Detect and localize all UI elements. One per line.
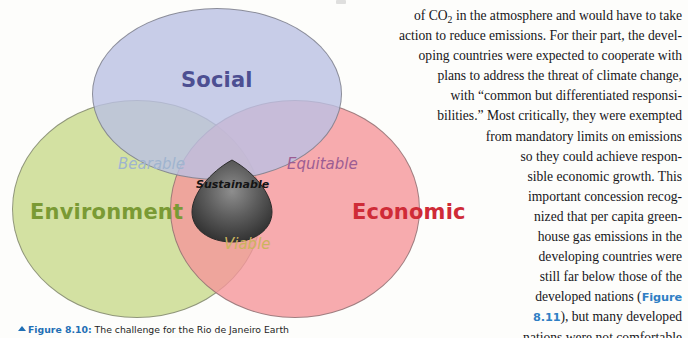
body-text-run: house gas emissions in the [538,229,682,244]
body-text-line-content: nations were not comfortable [523,328,682,338]
body-text-line-content: so they could achieve respon- [520,147,682,167]
venn-diagram: Social Environment Economic Bearable Equ… [0,0,390,320]
body-text-line: of CO2 in the atmosphere and would have … [380,6,688,26]
body-text-line-content: plans to address the threat of climate c… [437,66,682,86]
body-text-line: so they could achieve respon- [380,147,688,167]
venn-label-bearable: Bearable [118,155,185,173]
body-text-line: sible economic growth. This [380,167,688,187]
body-text-line-content: important concession recog- [528,187,682,207]
caption-figure-number[interactable]: Figure 8.10: [28,324,92,335]
body-text-run: oping countries were expected to coopera… [419,48,682,63]
body-text-run: in the atmosphere and would have to take [452,8,682,23]
body-text-run: action to reduce emissions. For their pa… [399,28,682,43]
body-text-line: oping countries were expected to coopera… [380,46,688,66]
body-text-run: plans to address the threat of climate c… [437,68,682,83]
venn-label-equitable: Equitable [287,155,358,173]
body-text-run: ), but many developed [560,309,682,324]
body-text-column: of CO2 in the atmosphere and would have … [380,6,688,338]
body-text-line-content: bilities.” Most critically, they were ex… [437,106,682,126]
caption-text: The challenge for the Rio de Janeiro Ear… [92,324,289,335]
venn-label-economic: Economic [352,200,466,224]
body-text-line: plans to address the threat of climate c… [380,66,688,86]
body-text-run: from mandatory limits on emissions [486,129,682,144]
body-text-line-content: still far below those of the [540,267,682,287]
venn-label-social: Social [181,68,253,92]
body-text-run: nations were not comfortable [523,330,682,338]
body-text-run: sible economic growth. This [527,169,682,184]
body-text-run: with “common but differentiated responsi… [450,88,682,103]
body-text-line-content: oping countries were expected to coopera… [419,46,682,66]
body-text-run: developed nations ( [535,289,641,304]
triangle-up-icon [18,326,26,331]
venn-label-viable: Viable [224,235,271,253]
figure-page: Social Environment Economic Bearable Equ… [0,0,688,338]
body-text-line: bilities.” Most critically, they were ex… [380,106,688,126]
body-text-run: so they could achieve respon- [520,149,682,164]
body-text-line-content: 8.11), but many developed [533,307,682,328]
figure-block: Social Environment Economic Bearable Equ… [0,0,390,338]
body-text-line-content: with “common but differentiated responsi… [450,86,682,106]
body-text-line-content: from mandatory limits on emissions [486,127,682,147]
body-text-line-content: action to reduce emissions. For their pa… [399,26,682,46]
venn-label-environment: Environment [30,200,183,224]
body-text-run: important concession recog- [528,189,682,204]
body-text-run: nized that per capita green- [534,209,682,224]
body-text-run: of CO [414,8,448,23]
body-text-line-content: developing countries were [539,247,682,267]
body-text-line: from mandatory limits on emissions [380,127,688,147]
figure-reference-link[interactable]: 8.11 [533,311,560,324]
figure-caption: Figure 8.10: The challenge for the Rio d… [28,323,368,336]
body-text-line-content: sible economic growth. This [527,167,682,187]
body-text-line: action to reduce emissions. For their pa… [380,26,688,46]
body-text-line: 8.11), but many developed [380,307,688,327]
venn-center-sustainable-region [190,158,274,244]
body-text-line: developed nations (Figure [380,287,688,307]
body-text-line-content: developed nations (Figure [535,287,682,308]
body-text-line: nations were not comfortable [380,328,688,338]
body-text-line: developing countries were [380,247,688,267]
body-text-run: bilities.” Most critically, they were ex… [437,108,682,123]
body-text-run: developing countries were [539,249,682,264]
body-text-run: still far below those of the [540,269,682,284]
body-text-line: with “common but differentiated responsi… [380,86,688,106]
body-text-line: still far below those of the [380,267,688,287]
body-text-line-content: nized that per capita green- [534,207,682,227]
body-text-line-content: house gas emissions in the [538,227,682,247]
figure-reference-link[interactable]: Figure [642,291,682,304]
body-text-line: house gas emissions in the [380,227,688,247]
venn-label-sustainable: Sustainable [196,178,269,191]
